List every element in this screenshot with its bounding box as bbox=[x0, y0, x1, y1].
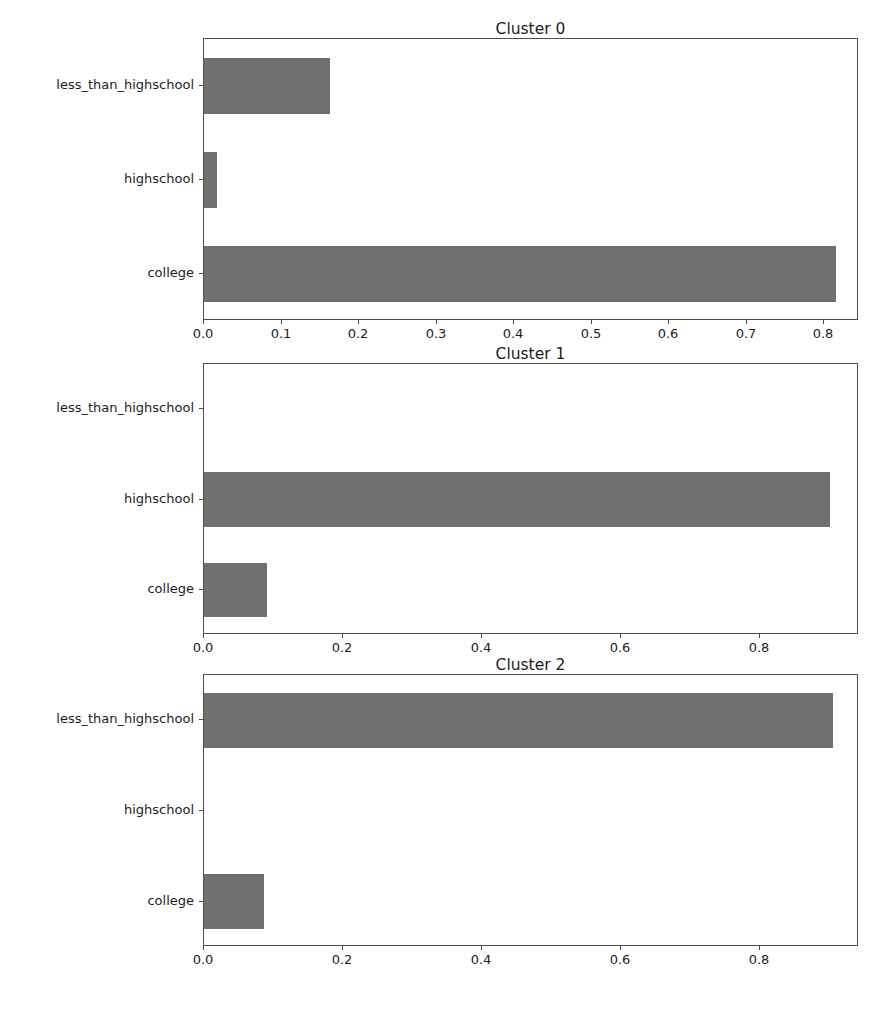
plot-area bbox=[203, 674, 858, 946]
bar bbox=[204, 246, 836, 302]
x-tick-mark bbox=[203, 634, 204, 638]
y-tick-mark bbox=[199, 810, 203, 811]
y-tick-label: college bbox=[147, 893, 194, 908]
x-tick-mark bbox=[436, 320, 437, 324]
bar bbox=[204, 58, 330, 114]
x-tick-mark bbox=[203, 320, 204, 324]
x-tick-mark bbox=[358, 320, 359, 324]
y-tick-mark bbox=[199, 589, 203, 590]
x-tick-label: 0.0 bbox=[193, 640, 214, 655]
x-tick-mark bbox=[513, 320, 514, 324]
y-tick-label: highschool bbox=[124, 171, 194, 186]
x-tick-label: 0.0 bbox=[193, 952, 214, 967]
x-tick-mark bbox=[342, 946, 343, 950]
y-tick-label: college bbox=[147, 265, 194, 280]
x-tick-mark bbox=[203, 946, 204, 950]
x-tick-mark bbox=[823, 320, 824, 324]
x-tick-label: 0.6 bbox=[610, 952, 631, 967]
y-tick-mark bbox=[199, 901, 203, 902]
x-tick-mark bbox=[481, 946, 482, 950]
x-tick-label: 0.7 bbox=[736, 326, 757, 341]
bar bbox=[204, 693, 833, 747]
y-tick-label: less_than_highschool bbox=[56, 711, 194, 726]
x-tick-mark bbox=[591, 320, 592, 324]
bar bbox=[204, 563, 267, 617]
x-tick-label: 0.2 bbox=[332, 640, 353, 655]
x-tick-label: 0.3 bbox=[426, 326, 447, 341]
x-tick-label: 0.6 bbox=[658, 326, 679, 341]
x-tick-label: 0.4 bbox=[503, 326, 524, 341]
x-tick-label: 0.8 bbox=[749, 640, 770, 655]
x-tick-label: 0.8 bbox=[813, 326, 834, 341]
x-tick-mark bbox=[668, 320, 669, 324]
figure-canvas: Cluster 0less_than_highschoolhighschoolc… bbox=[0, 0, 886, 1022]
x-tick-label: 0.5 bbox=[581, 326, 602, 341]
x-tick-label: 0.2 bbox=[348, 326, 369, 341]
x-tick-label: 0.6 bbox=[610, 640, 631, 655]
y-tick-label: highschool bbox=[124, 802, 194, 817]
plot-area bbox=[203, 38, 858, 320]
x-tick-label: 0.8 bbox=[749, 952, 770, 967]
x-tick-label: 0.2 bbox=[332, 952, 353, 967]
y-tick-label: less_than_highschool bbox=[56, 77, 194, 92]
subplot-title: Cluster 1 bbox=[203, 345, 858, 364]
y-tick-mark bbox=[199, 85, 203, 86]
x-tick-mark bbox=[620, 946, 621, 950]
y-tick-mark bbox=[199, 179, 203, 180]
x-tick-label: 0.4 bbox=[471, 640, 492, 655]
bar bbox=[204, 472, 830, 526]
y-tick-label: highschool bbox=[124, 491, 194, 506]
plot-area bbox=[203, 363, 858, 634]
bar bbox=[204, 152, 217, 208]
x-tick-mark bbox=[620, 634, 621, 638]
y-tick-label: college bbox=[147, 581, 194, 596]
y-tick-label: less_than_highschool bbox=[56, 400, 194, 415]
subplot-title: Cluster 2 bbox=[203, 656, 858, 675]
x-tick-label: 0.1 bbox=[271, 326, 292, 341]
x-tick-mark bbox=[342, 634, 343, 638]
x-tick-mark bbox=[281, 320, 282, 324]
y-tick-mark bbox=[199, 408, 203, 409]
x-tick-mark bbox=[759, 946, 760, 950]
subplot-title: Cluster 0 bbox=[203, 20, 858, 39]
x-tick-label: 0.0 bbox=[193, 326, 214, 341]
y-tick-mark bbox=[199, 499, 203, 500]
y-tick-mark bbox=[199, 273, 203, 274]
x-tick-mark bbox=[759, 634, 760, 638]
y-tick-mark bbox=[199, 719, 203, 720]
x-tick-mark bbox=[481, 634, 482, 638]
bar bbox=[204, 874, 264, 928]
x-tick-label: 0.4 bbox=[471, 952, 492, 967]
x-tick-mark bbox=[746, 320, 747, 324]
